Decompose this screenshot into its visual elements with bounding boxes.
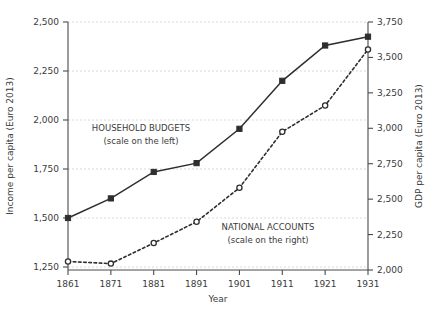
- datapoint-na-1921: [323, 103, 328, 108]
- datapoint-na-1911: [280, 129, 285, 134]
- xtick-label-1871: 1871: [99, 279, 122, 289]
- datapoint-hb-1931: [365, 34, 370, 39]
- y2tick-label-3500: 3,500: [377, 52, 403, 62]
- ytick-label-2500: 2,500: [33, 17, 59, 27]
- datapoint-hb-1891: [194, 161, 199, 166]
- right-axis-ticks: [368, 22, 373, 270]
- ytick-label-1750: 1,750: [33, 164, 59, 174]
- right-axis-tick-labels: 3,750 3,500 3,250 3,000 2,750 2,500 2,25…: [377, 17, 403, 275]
- xtick-label-1911: 1911: [271, 279, 294, 289]
- y2tick-label-2250: 2,250: [377, 230, 403, 240]
- series-national-accounts: [65, 47, 370, 266]
- left-axis-ticks: [63, 22, 68, 267]
- annotation-national-accounts: NATIONAL ACCOUNTS (scale on the right): [222, 222, 315, 245]
- annotation-household-budgets-title: HOUSEHOLD BUDGETS: [92, 123, 190, 133]
- xtick-label-1901: 1901: [228, 279, 251, 289]
- y2tick-label-2000: 2,000: [377, 265, 403, 275]
- datapoint-hb-1861: [65, 215, 70, 220]
- datapoint-hb-1881: [151, 169, 156, 174]
- xtick-label-1921: 1921: [314, 279, 337, 289]
- y2tick-label-3750: 3,750: [377, 17, 403, 27]
- x-axis-tick-labels: 1861 1871 1881 1891 1901 1911 1921 1931: [57, 279, 380, 289]
- datapoint-na-1881: [151, 240, 156, 245]
- annotation-household-budgets-subtitle: (scale on the left): [104, 136, 179, 146]
- y2tick-label-2500: 2,500: [377, 194, 403, 204]
- datapoint-na-1871: [108, 261, 113, 266]
- ytick-label-2000: 2,000: [33, 115, 59, 125]
- ytick-label-1500: 1,500: [33, 213, 59, 223]
- chart-container: 2,500 2,250 2,000 1,750 1,500 1,250 3,75…: [0, 0, 433, 309]
- national-accounts-line: [68, 50, 368, 264]
- ytick-label-1250: 1,250: [33, 262, 59, 272]
- annotation-national-accounts-subtitle: (scale on the right): [227, 235, 308, 245]
- x-axis-ticks: [68, 270, 368, 275]
- y2tick-label-3250: 3,250: [377, 88, 403, 98]
- y2tick-label-3000: 3,000: [377, 123, 403, 133]
- datapoint-hb-1911: [280, 78, 285, 83]
- y2tick-label-2750: 2,750: [377, 159, 403, 169]
- datapoint-na-1891: [194, 219, 199, 224]
- xtick-label-1891: 1891: [185, 279, 208, 289]
- left-axis-tick-labels: 2,500 2,250 2,000 1,750 1,500 1,250: [33, 17, 59, 272]
- annotation-household-budgets: HOUSEHOLD BUDGETS (scale on the left): [92, 123, 190, 146]
- datapoint-na-1931: [365, 47, 370, 52]
- xtick-label-1861: 1861: [57, 279, 80, 289]
- xtick-label-1881: 1881: [142, 279, 165, 289]
- datapoint-hb-1871: [108, 196, 113, 201]
- datapoint-na-1861: [65, 259, 70, 264]
- y-axis-title-left: Income per capita (Euro 2013): [5, 77, 15, 215]
- national-accounts-markers: [65, 47, 370, 266]
- ytick-label-2250: 2,250: [33, 66, 59, 76]
- dual-axis-line-chart: 2,500 2,250 2,000 1,750 1,500 1,250 3,75…: [0, 0, 433, 309]
- datapoint-na-1901: [237, 185, 242, 190]
- datapoint-hb-1901: [237, 126, 242, 131]
- x-axis-title: Year: [207, 294, 227, 304]
- xtick-label-1931: 1931: [357, 279, 380, 289]
- datapoint-hb-1921: [323, 43, 328, 48]
- annotation-national-accounts-title: NATIONAL ACCOUNTS: [222, 222, 315, 232]
- y-axis-title-right: GDP per capita (Euro 2013): [414, 84, 424, 208]
